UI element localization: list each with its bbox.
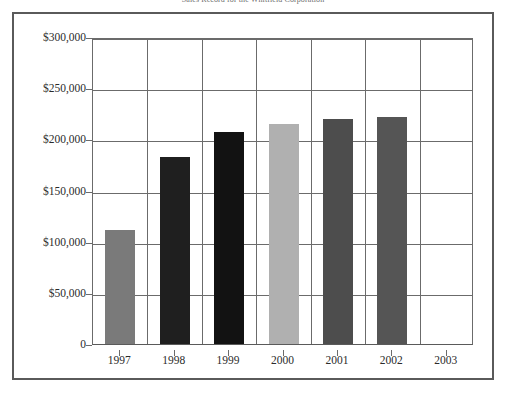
x-tick-label-2001: 2001 [310, 354, 364, 366]
plot-area [92, 38, 473, 345]
x-tick-label-1997: 1997 [92, 354, 146, 366]
x-tick-label-2003: 2003 [419, 354, 473, 366]
x-gridline [311, 39, 312, 344]
x-tick-label-1998: 1998 [146, 354, 200, 366]
bar-1999 [214, 132, 244, 344]
bar-2002 [377, 117, 407, 344]
x-gridline [202, 39, 203, 344]
bar-2001 [323, 119, 353, 344]
bar-1997 [105, 230, 135, 344]
x-gridline [365, 39, 366, 344]
x-gridline [147, 39, 148, 344]
x-tick-label-2002: 2002 [364, 354, 418, 366]
x-gridline [256, 39, 257, 344]
x-tick-label-2000: 2000 [255, 354, 309, 366]
sales-bar-chart: Sales Record for the Whitfield Corporati… [0, 0, 506, 395]
y-gridline [93, 39, 472, 40]
y-gridline [93, 90, 472, 91]
x-axis-labels: 1997199819992000200120022003 [92, 350, 473, 370]
bar-1998 [160, 157, 190, 344]
x-gridline [420, 39, 421, 344]
y-tick-mark [86, 345, 92, 346]
x-tick-label-1999: 1999 [201, 354, 255, 366]
bar-2000 [269, 124, 299, 344]
y-axis-ticks [0, 38, 100, 345]
chart-title: Sales Record for the Whitfield Corporati… [0, 0, 506, 4]
